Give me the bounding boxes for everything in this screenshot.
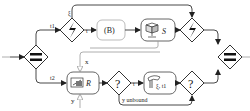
edge-s-loop: [90, 41, 158, 48]
edge-event2-join: [204, 30, 218, 44]
label-y-unbound: y unbound: [122, 97, 148, 103]
parallel-split-gateway: [24, 45, 48, 69]
task-t: ξ, t1: [144, 72, 176, 94]
task-r-label: R: [85, 79, 91, 88]
task-t-label: ξ, t1: [156, 83, 166, 90]
task-b: (B): [97, 20, 125, 40]
task-s-label: S: [162, 27, 166, 36]
exclusive-gateway-1: ?: [107, 71, 131, 95]
question-icon: ?: [188, 77, 193, 91]
exclusive-gateway-2: ?: [180, 71, 204, 95]
equals-icon: [224, 53, 236, 56]
task-s: S: [141, 19, 175, 41]
task-r: R: [67, 72, 99, 94]
edge-x-line: [80, 52, 160, 60]
question-icon: ?: [115, 77, 120, 91]
label-small: t: [86, 28, 88, 34]
event-gateway-2: [180, 18, 204, 42]
label-xi: ξ: [68, 10, 71, 17]
label-y: y: [71, 97, 75, 105]
task-b-label: (B): [104, 26, 115, 35]
edge-xi-bypass: [72, 5, 192, 18]
edge-t1: [36, 30, 60, 45]
label-small: t: [133, 81, 135, 87]
label-x: x: [85, 58, 89, 66]
event-gateway-1: [60, 18, 84, 42]
edge-xor2-join: [204, 70, 218, 83]
process-diagram: t1 t2 ξ t (B) S: [0, 0, 250, 111]
label-t1: t1: [50, 23, 55, 29]
equals-icon: [30, 53, 42, 56]
receive-icon: [71, 78, 83, 87]
label-t2: t2: [50, 75, 55, 81]
parallel-join-gateway: [218, 45, 242, 69]
